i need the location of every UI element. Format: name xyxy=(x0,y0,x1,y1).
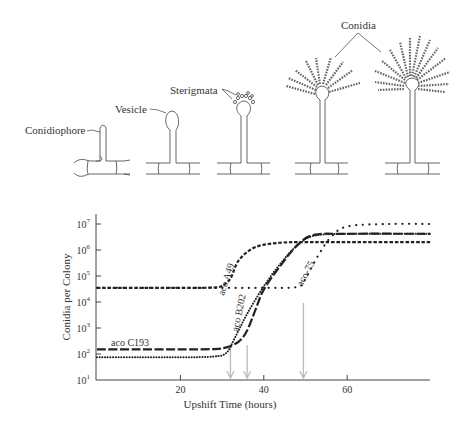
stage-sterigmata xyxy=(217,92,270,174)
series-line-aco-c193 xyxy=(97,234,431,350)
y-tick-label: 101 xyxy=(77,373,91,386)
conidiophore-leader xyxy=(87,130,100,132)
label-aco-c193: aco C193 xyxy=(111,337,149,348)
y-tick-label: 107 xyxy=(77,217,91,230)
conidia-chart: 101102103104105106107 204060 Upshift Tim… xyxy=(60,214,431,411)
x-tick-label: 40 xyxy=(259,384,269,395)
figure: Conidiophore Vesicle Sterigmata Conidia … xyxy=(0,0,468,425)
conidia-chains-mature xyxy=(375,36,450,92)
label-sterigmata: Sterigmata xyxy=(170,84,218,96)
label-aco-a49: aco A49 xyxy=(215,262,236,297)
vesicle-leader xyxy=(150,109,166,113)
series-line-aco-a49 xyxy=(97,242,431,288)
label-vesicle: Vesicle xyxy=(115,103,147,115)
stage-conidia-young xyxy=(286,57,360,174)
y-axis-title: Conidia per Colony xyxy=(60,253,72,340)
y-tick-label: 104 xyxy=(77,295,91,308)
label-aco-75: aco-75 xyxy=(294,259,316,288)
y-tick-label: 103 xyxy=(77,321,91,334)
stage-vesicle xyxy=(146,111,200,174)
x-ticks: 204060 xyxy=(175,375,352,395)
x-tick-label: 60 xyxy=(342,384,352,395)
stage-conidia-mature xyxy=(375,36,450,174)
y-tick-label: 102 xyxy=(77,347,91,360)
sterigmata-leader xyxy=(222,89,236,99)
y-ticks: 101102103104105106107 xyxy=(77,217,102,386)
label-aco-b202: aco B202 xyxy=(229,293,248,333)
label-conidia: Conidia xyxy=(341,19,376,31)
leader-lines xyxy=(87,33,381,132)
label-conidiophore: Conidiophore xyxy=(25,124,86,136)
y-tick-label: 106 xyxy=(77,243,91,256)
x-tick-label: 20 xyxy=(175,384,185,395)
conidia-leader xyxy=(335,33,381,57)
conidia-chains-young xyxy=(286,57,360,94)
x-axis-title: Upshift Time (hours) xyxy=(184,398,277,411)
y-tick-label: 105 xyxy=(77,269,91,282)
